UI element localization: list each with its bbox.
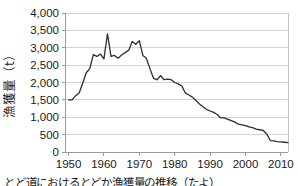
y-tick-label: 500 — [40, 129, 59, 141]
x-tick-label: 1990 — [197, 158, 223, 170]
y-tick-label: 2,000 — [30, 77, 59, 89]
y-axis-title: 漁獲量（t） — [2, 48, 17, 118]
figure-caption: とど道におけるとどか漁獲量の推移（たよ） — [4, 174, 220, 186]
x-tick-label: 2000 — [233, 158, 259, 170]
y-axis-group: 05001,0001,5002,0002,5003,0003,5004,000 — [30, 7, 65, 158]
y-tick-label: 3,500 — [30, 24, 59, 36]
x-axis-group: 1950196019701980199020002010 — [56, 152, 294, 170]
x-tick-label: 1970 — [127, 158, 153, 170]
catch-volume-line — [69, 34, 288, 143]
data-series-group — [69, 34, 288, 143]
y-tick-label: 2,500 — [30, 59, 59, 71]
y-tick-label: 4,000 — [30, 7, 59, 19]
y-tick-label: 1,500 — [30, 94, 59, 106]
x-tick-label: 2010 — [268, 158, 294, 170]
y-tick-label: 1,000 — [30, 111, 59, 123]
x-tick-label: 1980 — [162, 158, 188, 170]
x-tick-labels: 1950196019701980199020002010 — [56, 158, 294, 170]
gridlines-group — [65, 13, 288, 135]
y-tick-labels: 05001,0001,5002,0002,5003,0003,5004,000 — [30, 7, 59, 158]
y-tick-label: 3,000 — [30, 42, 59, 54]
x-tick-label: 1960 — [91, 158, 117, 170]
y-tick-label: 0 — [53, 146, 59, 158]
x-tick-label: 1950 — [56, 158, 82, 170]
x-tick-marks — [69, 152, 281, 156]
fishery-catch-line-chart: 05001,0001,5002,0002,5003,0003,5004,000 … — [0, 0, 298, 186]
chart-figure: 05001,0001,5002,0002,5003,0003,5004,000 … — [0, 0, 298, 186]
